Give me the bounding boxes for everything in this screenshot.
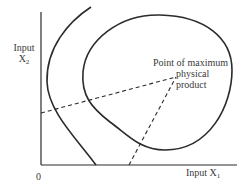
annotation-line2: physical <box>153 68 231 79</box>
y-axis-label-line1: Input <box>9 42 39 53</box>
y-axis-label: Input X2 <box>9 42 39 64</box>
max-product-annotation: Point of maximum physical product <box>153 57 231 90</box>
y-axis-subscript: 2 <box>26 58 30 66</box>
x-axis-subscript: 1 <box>217 172 221 180</box>
ridge-line-lower <box>129 77 176 165</box>
annotation-line3: product <box>153 79 231 90</box>
diagram-canvas <box>0 0 251 186</box>
annotation-line1: Point of maximum <box>153 57 231 68</box>
outer-isoquant-curve <box>47 7 96 165</box>
x-axis-label: Input X1 <box>186 167 220 178</box>
y-axis-var: X <box>19 53 26 64</box>
y-axis-label-line2: X2 <box>9 53 39 64</box>
origin-label: 0 <box>36 171 41 182</box>
x-axis-label-text: Input X <box>186 167 217 178</box>
